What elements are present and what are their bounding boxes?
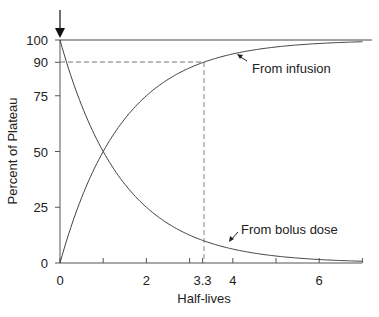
x-tick-label: 4 xyxy=(229,273,236,288)
y-tick-label: 25 xyxy=(34,200,48,215)
x-tick-label: 6 xyxy=(316,273,323,288)
infusion-annotation: From infusion xyxy=(237,54,331,76)
half-life-plateau-chart: Percent of Plateau Half-lives 0255075901… xyxy=(0,0,379,317)
bolus-annotation: From bolus dose xyxy=(229,222,338,242)
y-ticks: 025507590100 xyxy=(26,33,60,271)
x-axis-title: Half-lives xyxy=(177,291,231,306)
x-tick-label: 2 xyxy=(143,273,150,288)
y-tick-label: 75 xyxy=(34,89,48,104)
dose-arrow-icon xyxy=(55,10,65,38)
infusion-label: From infusion xyxy=(252,61,331,76)
x-tick-label: 0 xyxy=(56,273,63,288)
x-tick-label: 3.3 xyxy=(194,273,212,288)
bolus-label: From bolus dose xyxy=(241,222,338,237)
y-axis-title: Percent of Plateau xyxy=(5,98,20,205)
y-tick-label: 50 xyxy=(34,145,48,160)
y-tick-label: 100 xyxy=(26,33,48,48)
y-tick-label: 0 xyxy=(41,256,48,271)
y-tick-label: 90 xyxy=(34,55,48,70)
